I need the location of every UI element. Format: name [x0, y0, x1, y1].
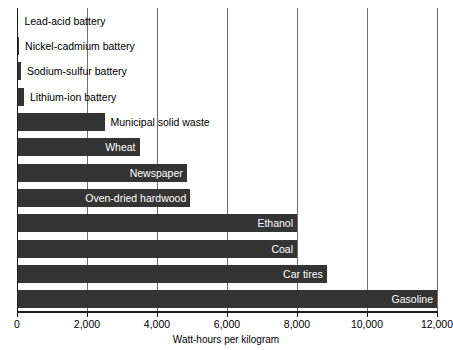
bar-row[interactable]: Ethanol: [17, 214, 437, 232]
gridline-12000: [437, 8, 438, 312]
bar-label: Gasoline: [392, 294, 433, 305]
bar-row[interactable]: Sodium-sulfur battery: [17, 62, 437, 80]
bar-label: Municipal solid waste: [105, 117, 210, 128]
bar-label: Car tires: [283, 269, 323, 280]
bar[interactable]: [17, 265, 327, 283]
tick-mark-10000: [367, 313, 368, 317]
bar[interactable]: [17, 290, 437, 308]
tick-mark-2000: [87, 313, 88, 317]
bar[interactable]: [17, 88, 24, 106]
bar[interactable]: [17, 240, 297, 258]
x-tick-label: 12,000: [421, 318, 453, 330]
x-axis-title: Watt-hours per kilogram: [0, 334, 452, 345]
bar-label: Sodium-sulfur battery: [21, 66, 127, 77]
x-tick-label: 0: [14, 318, 20, 330]
x-tick-label: 10,000: [351, 318, 383, 330]
bar-row[interactable]: Oven-dried hardwood: [17, 189, 437, 207]
bar-label: Oven-dried hardwood: [85, 193, 186, 204]
bar-label: Ethanol: [257, 218, 293, 229]
bar-row[interactable]: Newspaper: [17, 164, 437, 182]
bar-row[interactable]: Lithium-ion battery: [17, 88, 437, 106]
bar-row[interactable]: Municipal solid waste: [17, 113, 437, 131]
bar[interactable]: [17, 214, 297, 232]
x-tick-label: 8,000: [284, 318, 310, 330]
bar-label: Newspaper: [130, 167, 183, 178]
x-tick-label: 4,000: [144, 318, 170, 330]
tick-mark-8000: [297, 313, 298, 317]
bar-row[interactable]: Car tires: [17, 265, 437, 283]
bar-label: Wheat: [105, 142, 135, 153]
bar-label: Lead-acid battery: [18, 15, 105, 26]
x-tick-label: 6,000: [214, 318, 240, 330]
bar-label: Coal: [271, 243, 293, 254]
bar-row[interactable]: Nickel-cadmium battery: [17, 37, 437, 55]
bar-row[interactable]: Coal: [17, 240, 437, 258]
tick-mark-12000: [437, 313, 438, 317]
bar-label: Lithium-ion battery: [24, 91, 116, 102]
tick-mark-0: [17, 313, 18, 317]
bar-row[interactable]: Gasoline: [17, 290, 437, 308]
x-tick-label: 2,000: [74, 318, 100, 330]
tick-mark-4000: [157, 313, 158, 317]
tick-mark-6000: [227, 313, 228, 317]
y-axis-line: [17, 8, 18, 312]
bar-row[interactable]: Lead-acid battery: [17, 12, 437, 30]
plot-area: Lead-acid batteryNickel-cadmium batteryS…: [17, 8, 437, 312]
bar-label: Nickel-cadmium battery: [19, 41, 135, 52]
bar-row[interactable]: Wheat: [17, 138, 437, 156]
bar[interactable]: [17, 113, 105, 131]
